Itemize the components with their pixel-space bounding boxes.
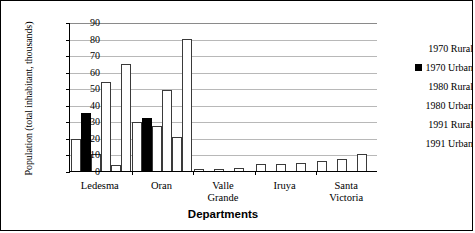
legend-swatch-icon bbox=[415, 64, 422, 71]
legend-item-label: 1970 Urban bbox=[426, 62, 474, 73]
legend-item[interactable]: 1980 Rural bbox=[389, 77, 473, 96]
legend-item-label: 1991 Urban bbox=[426, 138, 474, 149]
bar bbox=[317, 161, 327, 171]
bar bbox=[132, 122, 142, 171]
x-axis-title: Departments bbox=[69, 208, 377, 220]
legend-item-label: 1970 Rural bbox=[428, 43, 473, 54]
legend-item[interactable]: 1970 Urban bbox=[389, 58, 473, 77]
bar bbox=[214, 169, 224, 171]
bar bbox=[111, 165, 121, 171]
legend-swatch-icon bbox=[417, 121, 424, 128]
y-axis-tick-label: 40 bbox=[78, 101, 100, 111]
bar-group bbox=[316, 23, 378, 171]
y-axis-tick-label: 90 bbox=[78, 18, 100, 28]
legend-item-label: 1980 Urban bbox=[426, 100, 474, 111]
y-axis-tick-label: 0 bbox=[78, 167, 100, 177]
y-axis-tick-label: 60 bbox=[78, 68, 100, 78]
x-axis-tick-label: Ledesma bbox=[69, 180, 131, 192]
chart-figure: Population (total inhabitant, thousands)… bbox=[0, 0, 473, 231]
bar bbox=[142, 118, 152, 171]
x-axis-tick-label: Iruya bbox=[254, 180, 316, 192]
y-axis-tick-label: 20 bbox=[78, 134, 100, 144]
x-axis-tick-label-line: Valle bbox=[192, 180, 254, 192]
x-axis-tick-label-line: Ledesma bbox=[69, 180, 131, 192]
bar-group bbox=[255, 23, 317, 171]
x-axis-tick-label: Oran bbox=[131, 180, 193, 192]
legend-item[interactable]: 1980 Urban bbox=[389, 96, 473, 115]
x-axis-tick-label-line: Oran bbox=[131, 180, 193, 192]
bar bbox=[182, 39, 192, 171]
legend-item-label: 1980 Rural bbox=[428, 81, 473, 92]
bar bbox=[276, 164, 286, 171]
bar bbox=[194, 169, 204, 171]
bar bbox=[296, 163, 306, 171]
y-axis-tick-label: 30 bbox=[78, 117, 100, 127]
y-axis-title: Population (total inhabitant, thousands) bbox=[23, 14, 34, 184]
x-axis-group-separator bbox=[255, 171, 256, 175]
bar bbox=[152, 126, 162, 171]
bar bbox=[121, 64, 131, 171]
x-axis-group-separator bbox=[132, 171, 133, 175]
y-axis-tick-label: 10 bbox=[78, 150, 100, 160]
legend-swatch-icon bbox=[415, 102, 422, 109]
x-axis-tick-label-line: Victoria bbox=[315, 192, 377, 204]
x-axis-group-separator bbox=[316, 171, 317, 175]
bar bbox=[357, 154, 367, 171]
x-axis-tick-label: ValleGrande bbox=[192, 180, 254, 204]
bar-group bbox=[193, 23, 255, 171]
bar bbox=[162, 90, 172, 171]
bar-group bbox=[70, 23, 132, 171]
legend-item[interactable]: 1970 Rural bbox=[389, 39, 473, 58]
y-axis-tick-label: 70 bbox=[78, 51, 100, 61]
x-axis-tick-label-line: Iruya bbox=[254, 180, 316, 192]
y-axis-tick-label: 80 bbox=[78, 35, 100, 45]
bar bbox=[256, 164, 266, 171]
plot-area bbox=[69, 23, 377, 172]
legend-item[interactable]: 1991 Rural bbox=[389, 115, 473, 134]
x-axis-tick-label-line: Grande bbox=[192, 192, 254, 204]
bar bbox=[337, 159, 347, 171]
chart-legend: 1970 Rural1970 Urban1980 Rural1980 Urban… bbox=[389, 39, 473, 153]
y-axis-tick-mark bbox=[66, 172, 70, 173]
x-axis-group-separator bbox=[193, 171, 194, 175]
x-axis-tick-label: SantaVictoria bbox=[315, 180, 377, 204]
bar bbox=[234, 168, 244, 171]
y-axis-tick-label: 50 bbox=[78, 84, 100, 94]
legend-item[interactable]: 1991 Urban bbox=[389, 134, 473, 153]
legend-swatch-icon bbox=[417, 45, 424, 52]
legend-item-label: 1991 Rural bbox=[428, 119, 473, 130]
bar bbox=[101, 82, 111, 171]
bar bbox=[172, 137, 182, 171]
bar-group bbox=[132, 23, 194, 171]
legend-swatch-icon bbox=[417, 83, 424, 90]
x-axis-tick-label-line: Santa bbox=[315, 180, 377, 192]
legend-swatch-icon bbox=[415, 140, 422, 147]
